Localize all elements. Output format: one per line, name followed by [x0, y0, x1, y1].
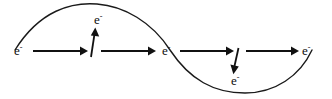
electron-label-top: e- [94, 13, 102, 26]
arrow-up-1 [91, 28, 99, 58]
arrow-right-4 [246, 47, 299, 56]
electron-charge: - [20, 43, 23, 52]
arrow-right-3-head [226, 47, 234, 56]
arrow-right-2 [101, 47, 156, 56]
electron-charge: - [308, 43, 311, 52]
electron-label-left: e- [14, 44, 22, 57]
electron-charge: - [237, 73, 240, 82]
arrow-right-1 [33, 47, 88, 56]
arrow-right-3 [180, 47, 234, 56]
arrow-up-1-shaft [91, 34, 95, 57]
electron-charge: - [168, 43, 171, 52]
arrow-right-4-head [291, 47, 299, 56]
electron-label-right: e- [302, 44, 310, 57]
arrow-right-1-head [80, 47, 88, 56]
electron-label-bottom: e- [231, 74, 239, 87]
arrow-up-1-head [91, 28, 99, 37]
electron-wave-diagram: e- e- e- e- e- [0, 0, 332, 99]
electron-charge: - [100, 12, 103, 21]
arrow-right-2-head [148, 47, 156, 56]
arrow-down-1-shaft [235, 48, 239, 66]
electron-label-center: e- [162, 44, 170, 57]
